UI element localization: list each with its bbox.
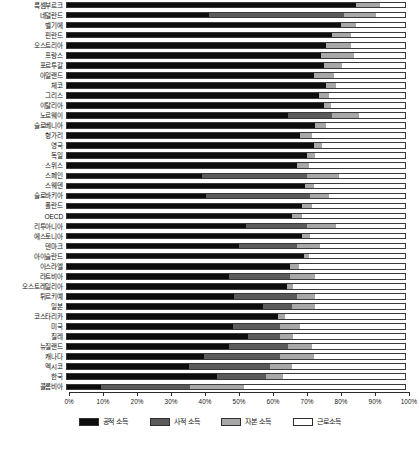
bar-segment: [206, 194, 311, 199]
category-label: 오스트리아: [0, 42, 66, 49]
bar-segment: [204, 354, 280, 359]
medium-gray-swatch: [221, 418, 241, 426]
bar-segment: [292, 364, 405, 369]
bar-segment: [270, 364, 292, 369]
x-axis-tick-label: 10%: [97, 398, 110, 406]
bar-segment: [67, 163, 297, 168]
bar-row: 덴마크: [0, 241, 419, 251]
bar-row: 아일랜드: [0, 70, 419, 80]
bar-segment: [297, 244, 321, 249]
bar-row: 슬로베니아: [0, 121, 419, 131]
bar-segment: [332, 33, 351, 38]
bar-segment: [320, 244, 405, 249]
category-label: 스페인: [0, 172, 66, 179]
bar-row: 튀르키예: [0, 291, 419, 301]
bar-segment: [293, 334, 405, 339]
bar-segment: [67, 43, 326, 48]
bar-segment: [67, 364, 189, 369]
bar-track: [66, 273, 406, 280]
x-axis-tick-label: 60%: [267, 398, 280, 406]
bar-segment: [67, 284, 287, 289]
bar-segment: [310, 194, 329, 199]
bar-track: [66, 92, 406, 99]
category-label: 체코: [0, 82, 66, 89]
bar-row: 아이슬란드: [0, 251, 419, 261]
bar-segment: [290, 264, 298, 269]
bar-row: 영국: [0, 141, 419, 151]
bar-row: 포르투갈: [0, 60, 419, 70]
category-label: 스웨덴: [0, 182, 66, 189]
category-label: 캐나다: [0, 353, 66, 360]
category-label: 포르투갈: [0, 62, 66, 69]
bar-row: 이스라엘: [0, 261, 419, 271]
bar-segment: [67, 254, 304, 259]
bar-row: 룩셈부르크: [0, 0, 419, 10]
bar-segment: [315, 294, 405, 299]
bar-segment: [67, 93, 319, 98]
chart-legend: 공적 소득사적 소득자본 소득근로소득: [0, 418, 419, 426]
bar-track: [66, 293, 406, 300]
bar-row: 헝가리: [0, 131, 419, 141]
bar-row: 에스토니아: [0, 231, 419, 241]
bar-track: [66, 122, 406, 129]
bar-track: [66, 243, 406, 250]
category-label: 슬로베니아: [0, 122, 66, 129]
bar-track: [66, 384, 406, 391]
bar-segment: [315, 304, 405, 309]
bar-segment: [356, 3, 380, 8]
bar-track: [66, 373, 406, 380]
bar-row: 벨기에: [0, 20, 419, 30]
x-axis-tick: [69, 392, 70, 396]
category-label: 코스타리카: [0, 313, 66, 320]
bar-row: 오스트리아: [0, 40, 419, 50]
bar-row: 폴란드: [0, 201, 419, 211]
bar-segment: [336, 224, 405, 229]
bar-segment: [312, 204, 405, 209]
x-axis-tick-label: 50%: [233, 398, 246, 406]
bar-track: [66, 142, 406, 149]
legend-item[interactable]: 공적 소득: [79, 418, 128, 426]
bar-segment: [292, 304, 316, 309]
bar-segment: [246, 224, 307, 229]
legend-item[interactable]: 근로소득: [293, 418, 341, 426]
bar-segment: [67, 194, 206, 199]
bar-track: [66, 343, 406, 350]
bar-track: [66, 223, 406, 230]
plot-area: 룩셈부르크네덜란드벨기에핀란드오스트리아프랑스포르투갈아일랜드체코그리스이탈리아…: [0, 0, 419, 392]
bar-segment: [305, 184, 313, 189]
bar-segment: [101, 385, 191, 390]
category-label: 네덜란드: [0, 12, 66, 19]
bar-segment: [67, 123, 315, 128]
bar-segment: [67, 113, 288, 118]
bar-segment: [344, 13, 376, 18]
category-label: 일본: [0, 303, 66, 310]
bar-segment: [288, 344, 312, 349]
bar-track: [66, 162, 406, 169]
bar-segment: [283, 374, 405, 379]
legend-item[interactable]: 자본 소득: [221, 418, 270, 426]
bar-segment: [312, 133, 405, 138]
bar-segment: [302, 204, 312, 209]
x-axis-tick: [307, 392, 308, 396]
bar-segment: [67, 143, 314, 148]
category-label: 폴란드: [0, 202, 66, 209]
bar-track: [66, 213, 406, 220]
bar-track: [66, 323, 406, 330]
category-label: 벨기에: [0, 22, 66, 29]
bar-row: 캐나다: [0, 352, 419, 362]
x-axis-tick-label: 0%: [64, 398, 73, 406]
bar-track: [66, 82, 406, 89]
bar-segment: [209, 13, 344, 18]
bar-segment: [324, 63, 343, 68]
bar-segment: [314, 354, 405, 359]
stacked-bar-chart: 룩셈부르크네덜란드벨기에핀란드오스트리아프랑스포르투갈아일랜드체코그리스이탈리아…: [0, 0, 419, 449]
legend-item[interactable]: 사적 소득: [150, 418, 199, 426]
category-label: 그리스: [0, 92, 66, 99]
x-axis-tick-label: 70%: [301, 398, 314, 406]
x-axis-tick: [341, 392, 342, 396]
bar-segment: [380, 3, 405, 8]
bar-segment: [67, 314, 278, 319]
bar-row: 오스트레일리아: [0, 281, 419, 291]
bar-segment: [376, 13, 405, 18]
bar-row: 스페인: [0, 171, 419, 181]
